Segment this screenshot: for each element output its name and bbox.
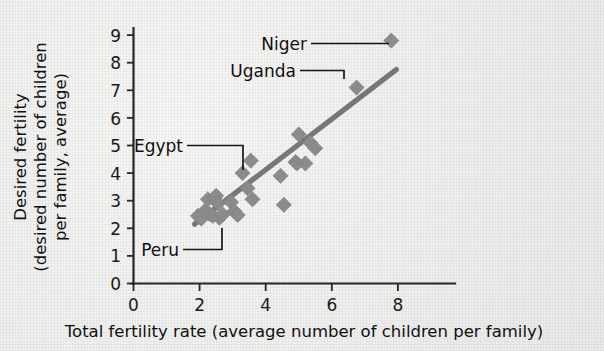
x-axis-ticklabels: 0 2 4 6 8 xyxy=(128,295,403,315)
y-ticklabel-0: 0 xyxy=(110,274,121,294)
y-ticklabel-4: 4 xyxy=(110,164,121,184)
x-ticklabel-6: 6 xyxy=(326,295,337,315)
data-point-marker xyxy=(276,197,291,212)
y-axis-ticklabels: 0 1 2 3 4 5 6 7 8 9 xyxy=(110,26,121,294)
egypt-leader-line xyxy=(187,146,243,171)
y-ticklabel-7: 7 xyxy=(110,81,121,101)
annotation-labels: Niger Uganda Egypt Peru xyxy=(134,34,307,260)
x-axis-title-group: Total fertility rate (average number of … xyxy=(64,322,543,341)
y-axis-title-group: Desired fertility (desired number of chi… xyxy=(11,42,70,272)
annotation-label-niger: Niger xyxy=(261,34,307,54)
scatter-chart-figure: 0 1 2 3 4 5 6 7 8 9 0 2 4 6 8 xyxy=(0,0,604,351)
uganda-leader-line xyxy=(300,71,344,80)
y-ticklabel-2: 2 xyxy=(110,219,121,239)
annotation-label-egypt: Egypt xyxy=(134,136,183,156)
data-point-marker xyxy=(384,33,399,48)
x-ticklabel-2: 2 xyxy=(194,295,205,315)
y-axis-title-line3: per family, average) xyxy=(51,73,70,241)
data-point-marker xyxy=(273,168,288,183)
x-axis-ticks xyxy=(134,284,398,291)
y-ticklabel-9: 9 xyxy=(110,26,121,46)
y-axis-title-line1: Desired fertility xyxy=(11,93,30,221)
y-ticklabel-1: 1 xyxy=(110,246,121,266)
x-axis-title: Total fertility rate (average number of … xyxy=(64,322,543,341)
data-point-marker xyxy=(243,153,258,168)
y-ticklabel-6: 6 xyxy=(110,109,121,129)
x-ticklabel-0: 0 xyxy=(128,295,139,315)
chart-canvas: 0 1 2 3 4 5 6 7 8 9 0 2 4 6 8 xyxy=(0,0,604,351)
y-ticklabel-8: 8 xyxy=(110,53,121,73)
y-axis-title-line2: (desired number of children xyxy=(31,42,50,272)
data-point-marker xyxy=(298,156,313,171)
x-ticklabel-8: 8 xyxy=(392,295,403,315)
y-ticklabel-5: 5 xyxy=(110,136,121,156)
y-ticklabel-3: 3 xyxy=(110,191,121,211)
annotation-label-uganda: Uganda xyxy=(230,61,296,81)
peru-leader-line xyxy=(183,228,222,250)
y-axis-ticks xyxy=(127,35,133,283)
x-ticklabel-4: 4 xyxy=(260,295,271,315)
annotation-label-peru: Peru xyxy=(141,240,179,260)
